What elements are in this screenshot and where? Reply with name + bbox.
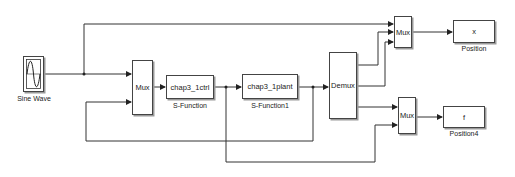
s-function-plant-block[interactable]: chap3_1plant [242,74,298,99]
junction-dot [83,73,86,76]
line-demux-out1 [357,32,393,65]
demux-block[interactable]: Demux [329,52,357,119]
s-function-plant-label: S-Function1 [251,102,289,109]
junction-dot [225,86,228,89]
position-x-block[interactable]: x [453,20,495,43]
mux-bottom-block[interactable]: Mux [398,97,416,134]
position4-f-block[interactable]: f [443,106,485,128]
position4-f-label: Position4 [450,130,479,137]
mux-top-block[interactable]: Mux [394,16,412,48]
sine-wave-block[interactable] [23,56,44,92]
mux1-block[interactable]: Mux [132,60,153,115]
line-demux-out2 [357,42,393,86]
position-x-label: Position [462,45,487,52]
s-function-ctrl-label: S-Function [173,102,207,109]
sine-wave-icon [26,59,41,89]
sine-wave-label: Sine Wave [17,95,51,102]
s-function-ctrl-block[interactable]: chap3_1ctrl [166,75,214,99]
junction-dot [312,86,315,89]
